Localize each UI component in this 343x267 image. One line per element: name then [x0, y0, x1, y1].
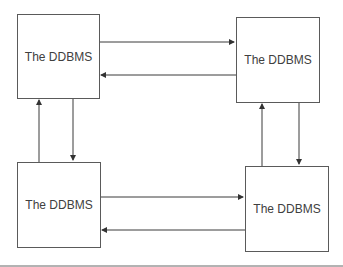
node-label: The DDBMS — [244, 53, 311, 67]
node-label: The DDBMS — [25, 198, 92, 212]
node-top-left: The DDBMS — [17, 14, 100, 99]
ddbms-network-diagram: The DDBMS The DDBMS The DDBMS The DDBMS — [0, 0, 343, 267]
node-label: The DDBMS — [25, 50, 92, 64]
node-top-right: The DDBMS — [236, 17, 320, 103]
node-label: The DDBMS — [253, 202, 320, 216]
node-bottom-right: The DDBMS — [245, 166, 329, 252]
node-bottom-left: The DDBMS — [17, 162, 101, 248]
